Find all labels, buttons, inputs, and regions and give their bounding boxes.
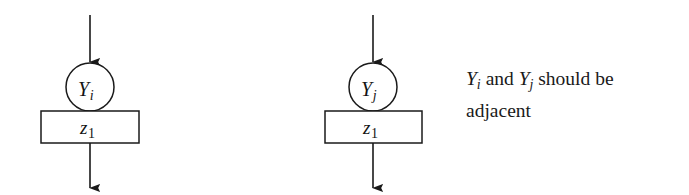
state-circle-left-label: Yi (78, 79, 94, 103)
flow-unit-right: Yj z1 (283, 0, 483, 195)
state-subscript-right: j (373, 88, 377, 103)
state-symbol-right: Y (361, 78, 372, 100)
caption-conjunction: and (481, 68, 519, 89)
figure-canvas: Yi z1 Yj z1 Yi and Yj should be adjacent (0, 0, 689, 195)
caption-text: Yi and Yj should be adjacent (466, 66, 681, 124)
delay-box-left-label: z1 (80, 118, 95, 141)
flow-unit-right-graphics (283, 0, 483, 195)
state-symbol-left: Y (78, 78, 89, 100)
caption-var2: Yj (519, 68, 534, 89)
delay-subscript-right: 1 (371, 126, 378, 141)
caption-var1: Yi (466, 68, 481, 89)
state-circle-right-label: Yj (361, 79, 377, 103)
caption-var2-symbol: Y (519, 68, 530, 89)
delay-box-right-label: z1 (363, 118, 378, 141)
delay-symbol-left: z (80, 117, 87, 138)
state-subscript-left: i (90, 88, 94, 103)
delay-subscript-left: 1 (88, 126, 95, 141)
delay-symbol-right: z (363, 117, 370, 138)
flow-unit-left: Yi z1 (0, 0, 200, 195)
flow-unit-left-graphics (0, 0, 200, 195)
caption-var1-symbol: Y (466, 68, 477, 89)
